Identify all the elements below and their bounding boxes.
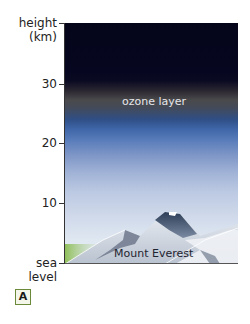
y-axis-title-line2: (km)	[29, 31, 57, 44]
tick-label-10: 10	[42, 197, 57, 210]
tick-label-30: 30	[42, 78, 57, 91]
ozone-layer-label: ozone layer	[122, 95, 186, 108]
tick-label-20: 20	[42, 137, 57, 150]
axis-tick-top	[59, 23, 65, 24]
tick-label-sea: sea	[36, 257, 57, 270]
sea-level-line	[64, 263, 238, 264]
panel-letter-badge: A	[15, 289, 31, 305]
axis-tick-30	[59, 84, 65, 85]
y-axis-title-line1: height	[19, 17, 57, 30]
tick-label-level: level	[28, 271, 57, 284]
axis-tick-10	[59, 203, 65, 204]
mount-everest-label: Mount Everest	[114, 247, 193, 260]
axis-tick-0	[59, 263, 65, 264]
axis-tick-20	[59, 143, 65, 144]
